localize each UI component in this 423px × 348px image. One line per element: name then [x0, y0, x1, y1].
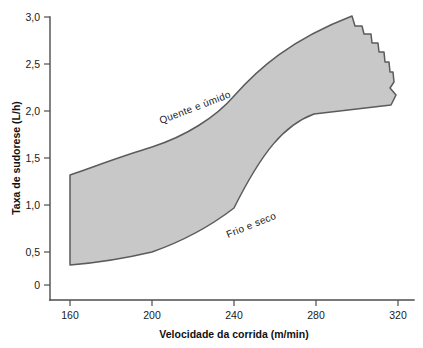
x-axis-title: Velocidade da corrida (m/min) [159, 328, 308, 340]
x-tick-label-200: 200 [143, 309, 161, 321]
sweat-rate-chart: 3,0 2,5 2,0 1,5 1,0 0,5 0 160 200 240 28… [0, 0, 423, 348]
x-tick-label-160: 160 [61, 309, 79, 321]
y-tick-label-2-0: 2,0 [25, 105, 40, 117]
y-tick-label-1-0: 1,0 [25, 199, 40, 211]
chart-canvas: 3,0 2,5 2,0 1,5 1,0 0,5 0 160 200 240 28… [0, 0, 423, 348]
x-tick-label-240: 240 [225, 309, 243, 321]
y-tick-label-3-0: 3,0 [25, 11, 40, 23]
y-tick-label-0-5: 0,5 [25, 246, 40, 258]
y-tick-label-1-5: 1,5 [25, 152, 40, 164]
y-tick-label-2-5: 2,5 [25, 58, 40, 70]
x-tick-label-320: 320 [389, 309, 407, 321]
annotation-cold-dry: Frio e seco [225, 210, 278, 240]
y-tick-label-0: 0 [34, 279, 40, 291]
y-axis-title: Taxa de sudorese (L/h) [10, 101, 22, 215]
x-axis-ticks [70, 300, 398, 306]
y-axis-ticks [44, 17, 50, 285]
x-tick-label-280: 280 [307, 309, 325, 321]
